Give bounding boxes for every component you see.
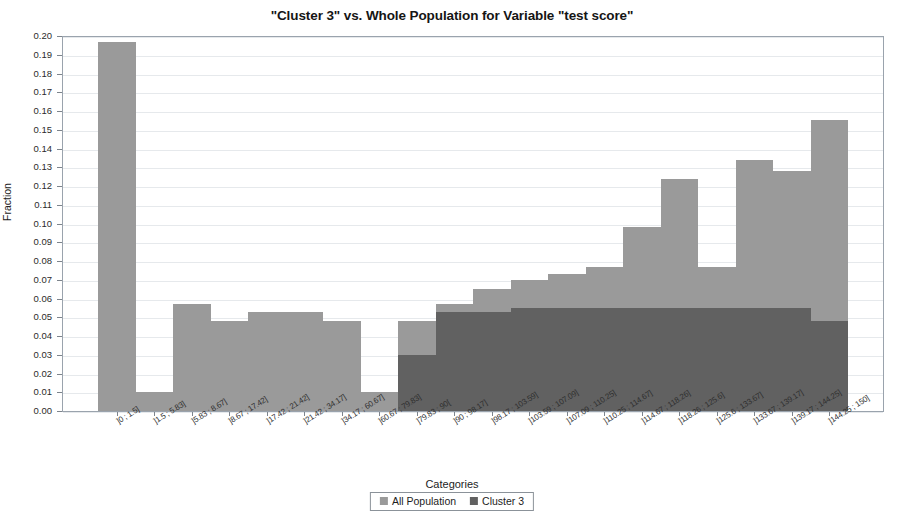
y-axis-tick-label: 0.09	[8, 237, 52, 247]
bar-all-population[interactable]	[248, 312, 286, 411]
y-axis-tick-label: 0.01	[8, 387, 52, 397]
bar-all-population[interactable]	[173, 304, 211, 411]
bar-group[interactable]	[473, 36, 511, 411]
plot-area	[62, 36, 884, 411]
y-axis-tick-label: 0.20	[8, 31, 52, 41]
bar-cluster-3[interactable]	[436, 312, 474, 411]
legend-entry[interactable]: Cluster 3	[470, 495, 524, 507]
bar-group[interactable]	[286, 36, 324, 411]
bar-group[interactable]	[398, 36, 436, 411]
bar-group[interactable]	[436, 36, 474, 411]
bar-group[interactable]	[623, 36, 661, 411]
legend-label: Cluster 3	[482, 495, 524, 507]
y-axis-tick-mark	[57, 411, 62, 412]
bar-group[interactable]	[98, 36, 136, 411]
x-axis-label: Categories	[0, 478, 904, 490]
legend-label: All Population	[392, 495, 456, 507]
bar-cluster-3[interactable]	[473, 312, 511, 411]
y-axis-tick-label: 0.12	[8, 181, 52, 191]
y-axis-tick-label: 0.13	[8, 162, 52, 172]
bar-group[interactable]	[586, 36, 624, 411]
bar-group[interactable]	[136, 36, 174, 411]
bar-group[interactable]	[548, 36, 586, 411]
chart-title: "Cluster 3" vs. Whole Population for Var…	[0, 8, 904, 23]
y-axis-tick-label: 0.02	[8, 369, 52, 379]
y-axis-tick-label: 0.10	[8, 219, 52, 229]
bar-group[interactable]	[248, 36, 286, 411]
y-axis-tick-label: 0.16	[8, 106, 52, 116]
y-axis-tick-label: 0.14	[8, 144, 52, 154]
bar-group[interactable]	[211, 36, 249, 411]
y-axis-tick-label: 0.19	[8, 50, 52, 60]
bar-all-population[interactable]	[98, 42, 136, 411]
bar-group[interactable]	[511, 36, 549, 411]
bar-group[interactable]	[173, 36, 211, 411]
chart-legend: All PopulationCluster 3	[370, 492, 534, 511]
y-axis-tick-label: 0.03	[8, 350, 52, 360]
bar-group[interactable]	[323, 36, 361, 411]
y-axis-tick-label: 0.00	[8, 406, 52, 416]
bar-group[interactable]	[361, 36, 399, 411]
y-axis-tick-label: 0.17	[8, 87, 52, 97]
bar-all-population[interactable]	[211, 321, 249, 411]
y-axis-tick-label: 0.07	[8, 275, 52, 285]
bar-group[interactable]	[811, 36, 849, 411]
y-axis-tick-label: 0.06	[8, 294, 52, 304]
bar-group[interactable]	[773, 36, 811, 411]
y-axis-tick-label: 0.04	[8, 331, 52, 341]
y-axis-tick-label: 0.11	[8, 200, 52, 210]
y-axis-tick-label: 0.08	[8, 256, 52, 266]
y-axis-tick-label: 0.05	[8, 312, 52, 322]
y-axis-tick-label: 0.18	[8, 69, 52, 79]
bar-group[interactable]	[736, 36, 774, 411]
bar-group[interactable]	[661, 36, 699, 411]
y-axis-tick-label: 0.15	[8, 125, 52, 135]
bar-chart: "Cluster 3" vs. Whole Population for Var…	[0, 0, 904, 528]
legend-swatch-icon	[470, 497, 478, 505]
legend-swatch-icon	[380, 497, 388, 505]
bar-group[interactable]	[698, 36, 736, 411]
legend-entry[interactable]: All Population	[380, 495, 456, 507]
